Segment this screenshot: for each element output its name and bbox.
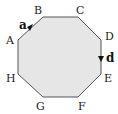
octagon-diagram: A B C D E F G H a d (0, 0, 118, 114)
vector-label-a: a (19, 18, 27, 32)
vertex-label-f: F (78, 100, 86, 113)
vertex-label-a: A (5, 34, 15, 47)
vertex-label-h: H (6, 72, 16, 85)
vertex-label-e: E (104, 72, 112, 85)
vertex-label-b: B (34, 4, 42, 17)
vertex-label-g: G (36, 100, 45, 113)
vertex-label-c: C (76, 4, 84, 17)
vector-label-d: d (106, 51, 115, 65)
vertex-label-d: D (105, 30, 114, 43)
